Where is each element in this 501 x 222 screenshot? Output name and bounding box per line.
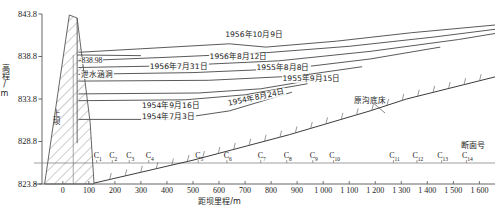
section-label-6: C6 — [219, 152, 237, 162]
section-label-12: C12 — [409, 152, 427, 162]
ground-hatch-tick — [141, 166, 143, 173]
ground-hatch-tick — [125, 169, 127, 176]
y-axis-tick-label: 843.8 — [2, 10, 37, 19]
y-axis-tick-label: 823.8 — [2, 180, 37, 189]
y-axis-tick-label: 828.8 — [2, 137, 37, 146]
profile-date-label-3: 1956年7月31日 — [149, 63, 209, 71]
ground-hatch-tick — [295, 126, 297, 133]
section-label-9: C9 — [305, 152, 323, 162]
ground-hatch-tick — [402, 94, 404, 101]
x-axis-title: 距坝里程/m — [198, 198, 241, 206]
ground-hatch-tick — [187, 155, 189, 162]
profile-date-label-1: 1956年10月9日 — [224, 31, 284, 39]
section-label-7: C7 — [253, 152, 271, 162]
ground-hatch-tick — [480, 74, 482, 81]
crest-elevation-value: 838.98 — [81, 57, 104, 65]
ground-hatch-tick — [172, 159, 174, 166]
ground-hatch-tick — [311, 122, 313, 128]
ground-hatch-tick — [249, 139, 251, 146]
section-axis-title: 断面号 — [461, 142, 485, 150]
ground-hatch-tick — [418, 90, 420, 97]
ground-hatch-tick — [341, 113, 343, 120]
profile-line-8 — [94, 77, 495, 183]
ground-hatch-tick — [387, 99, 389, 106]
section-label-2: C2 — [104, 152, 122, 162]
section-label-4: C4 — [141, 152, 159, 162]
profile-date-label-5: 1955年9月15日 — [282, 75, 342, 83]
x-axis-tick-label: 1 600 — [464, 187, 494, 195]
section-label-10: C10 — [326, 152, 344, 162]
ground-hatch-tick — [265, 135, 267, 142]
section-label-8: C8 — [279, 152, 297, 162]
ground-hatch-tick — [326, 117, 328, 124]
ground-hatch-tick — [433, 86, 435, 93]
ground-hatch-tick — [357, 108, 359, 115]
ground-hatch-tick — [110, 173, 112, 180]
ground-hatch-tick — [449, 82, 451, 89]
section-label-5: C5 — [190, 152, 208, 162]
dam-body — [45, 15, 94, 184]
ground-hatch-tick — [464, 78, 466, 85]
section-label-14: C14 — [458, 152, 476, 162]
y-axis-title: 高程/m — [0, 64, 8, 98]
profile-date-label-6: 1954年9月16日 — [141, 102, 201, 110]
culvert-label: 泄水涵洞 — [80, 71, 114, 79]
ground-hatch-tick — [280, 131, 282, 138]
section-label-13: C13 — [434, 152, 452, 162]
profile-date-label-2: 1956年8月12日 — [209, 53, 269, 61]
section-label-11: C11 — [386, 152, 404, 162]
section-label-3: C3 — [121, 152, 139, 162]
ground-hatch-tick — [234, 143, 236, 150]
profile-date-label-4: 1955年8月8日 — [256, 64, 311, 72]
profile-date-label-8: 1954年7月3日 — [141, 113, 196, 121]
dam-label: 上坝 — [52, 109, 60, 125]
original-bed-label: 原沟底床 — [353, 97, 387, 105]
y-axis-tick-label: 838.8 — [2, 52, 37, 61]
